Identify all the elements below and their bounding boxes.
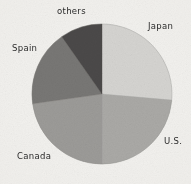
pie-label-us: U.S.: [164, 137, 182, 146]
pie-chart-figure: Japan U.S. Canada Spain others: [0, 0, 191, 184]
pie-slice-u-s: [102, 94, 172, 164]
pie-slice-japan: [102, 24, 172, 100]
pie-label-japan: Japan: [148, 22, 173, 31]
pie-label-others: others: [57, 7, 86, 16]
pie-slices-group: [32, 24, 172, 164]
pie-label-spain: Spain: [12, 44, 37, 53]
pie-label-canada: Canada: [17, 152, 51, 161]
